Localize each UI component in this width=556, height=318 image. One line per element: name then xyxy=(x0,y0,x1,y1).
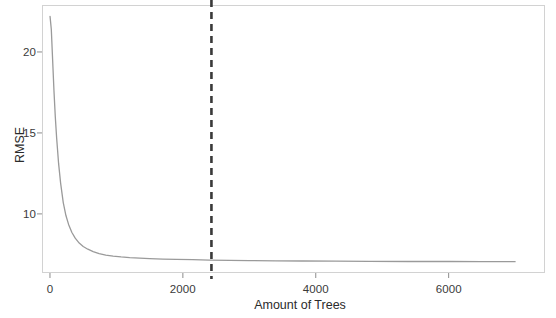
y-tick-label-10: 10 xyxy=(12,208,36,220)
x-tick-label-4000: 4000 xyxy=(303,283,329,295)
x-tick-label-0: 0 xyxy=(47,283,54,295)
x-tick-label-6000: 6000 xyxy=(436,283,462,295)
data-series-line xyxy=(50,16,515,261)
x-tick-label-2000: 2000 xyxy=(170,283,196,295)
plot-canvas xyxy=(0,0,556,318)
y-tick-label-20: 20 xyxy=(12,46,36,58)
y-axis-title: RMSE xyxy=(13,127,27,163)
x-axis-title: Amount of Trees xyxy=(254,298,346,312)
chart-figure: 101520 0200040006000 RMSE Amount of Tree… xyxy=(0,0,556,318)
